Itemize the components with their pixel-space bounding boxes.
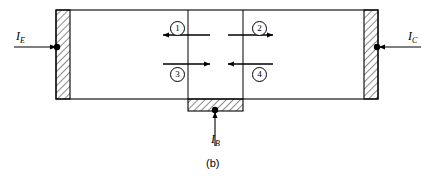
current-component-marker-3: 3 [170,67,185,82]
bjt-current-components-figure: IE IC IB 1 2 3 4 (b) [0,0,435,176]
marker-4-text: 4 [257,69,262,79]
current-component-marker-4: 4 [252,67,267,82]
base-current-subscript: B [215,139,220,148]
collector-current-subscript: C [412,36,417,45]
current-component-marker-2: 2 [252,21,267,36]
emitter-current-subscript: E [20,36,25,45]
emitter-current-label: IE [16,30,25,45]
collector-contact-hatched [364,10,378,99]
current-component-marker-1: 1 [170,21,185,36]
base-current-label: IB [211,133,220,148]
marker-1-text: 1 [175,23,180,33]
marker-3-text: 3 [175,69,180,79]
diagram-canvas [0,0,435,176]
figure-caption: (b) [206,158,219,169]
marker-2-text: 2 [257,23,262,33]
device-body-outline [56,10,378,99]
emitter-contact-hatched [56,10,70,99]
collector-current-label: IC [408,30,417,45]
